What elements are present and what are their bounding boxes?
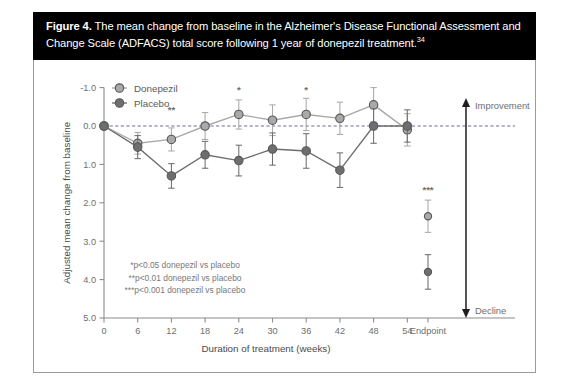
improvement-label: Improvement	[475, 100, 530, 111]
direction-arrow-head-down	[462, 309, 470, 318]
legend-label: Donepezil	[134, 83, 178, 94]
y-axis-tick-label: 5.0	[83, 313, 96, 323]
data-point	[100, 122, 108, 130]
y-axis-tick-label: 2.0	[83, 198, 96, 208]
x-axis-tick-label: 18	[200, 326, 210, 336]
data-point	[302, 147, 310, 155]
figure-page: Figure 4. The mean change from baseline …	[0, 0, 569, 390]
x-axis-tick-label: Endpoint	[410, 326, 447, 336]
x-axis-tick-label: 48	[368, 326, 378, 336]
data-point	[424, 213, 431, 220]
x-axis-tick-label: 6	[135, 326, 140, 336]
legend-label: Placebo	[134, 98, 170, 109]
data-point	[201, 122, 209, 130]
x-axis-tick-label: 36	[301, 326, 311, 336]
x-axis-tick-label: 24	[234, 326, 244, 336]
significance-marker: *	[237, 84, 241, 95]
data-point	[235, 110, 243, 118]
data-point	[369, 101, 377, 109]
data-point	[403, 122, 411, 130]
data-point	[424, 268, 431, 275]
x-axis-tick-label: 12	[166, 326, 176, 336]
legend-swatch-marker	[115, 99, 123, 107]
footnote-line: ***p<0.001 donepezil vs placebo	[125, 285, 246, 295]
y-axis-tick-label: 4.0	[83, 275, 96, 285]
y-axis-tick-label: 0.0	[83, 121, 96, 131]
data-point	[336, 166, 344, 174]
y-axis-tick-label: -1.0	[80, 83, 96, 93]
footnote-line: *p<0.05 donepezil vs placebo	[130, 260, 240, 270]
series-line	[104, 126, 407, 176]
significance-marker: *	[304, 84, 308, 95]
chart-plot-area: -1.00.01.02.03.04.05.0061218243036424854…	[0, 0, 569, 390]
x-axis-tick-label: 42	[335, 326, 345, 336]
decline-label: Decline	[475, 305, 506, 316]
data-point	[201, 151, 209, 159]
x-axis-tick-label: 0	[101, 326, 106, 336]
data-point	[235, 156, 243, 164]
direction-arrow-head-up	[462, 98, 470, 107]
data-point	[167, 135, 175, 143]
legend-item-donepezil: Donepezil	[112, 83, 178, 94]
legend-item-placebo: Placebo	[112, 98, 170, 109]
data-point	[369, 122, 377, 130]
data-point	[336, 114, 344, 122]
data-point	[268, 145, 276, 153]
y-axis-tick-label: 1.0	[83, 160, 96, 170]
y-axis-title: Adjusted mean change from baseline	[61, 121, 72, 283]
significance-marker: ***	[422, 184, 433, 195]
footnote-line: **p<0.01 donepezil vs placebo	[129, 273, 242, 283]
series-line	[104, 105, 407, 143]
data-point	[302, 110, 310, 118]
data-point	[167, 172, 175, 180]
chart-svg: -1.00.01.02.03.04.05.0061218243036424854…	[0, 0, 569, 390]
series-donepezil	[100, 88, 432, 233]
y-axis-tick-label: 3.0	[83, 237, 96, 247]
data-point	[268, 116, 276, 124]
legend-swatch-marker	[115, 84, 123, 92]
x-axis-tick-label: 30	[267, 326, 277, 336]
data-point	[134, 143, 142, 151]
x-axis-title: Duration of treatment (weeks)	[201, 343, 330, 354]
